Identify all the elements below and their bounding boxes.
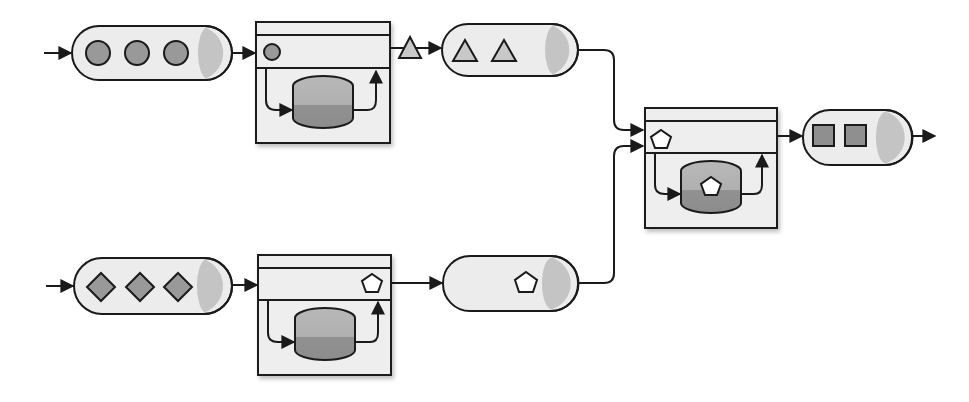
circle-token	[125, 41, 149, 65]
merge-arrow-top	[578, 50, 643, 130]
input-stream-b	[46, 258, 232, 314]
state-store	[293, 76, 353, 128]
state-store	[295, 308, 355, 360]
circle-token	[164, 41, 188, 65]
square-token	[845, 125, 866, 146]
circle-token	[264, 44, 280, 60]
intermediate-stream-b	[443, 256, 579, 311]
stream-pipeline-diagram	[0, 0, 969, 402]
output-stream	[803, 110, 913, 165]
intermediate-stream-a	[442, 24, 578, 76]
input-stream-a	[44, 26, 232, 80]
merge-arrow-bottom	[578, 146, 643, 283]
square-token	[813, 125, 834, 146]
circle-token	[86, 41, 110, 65]
